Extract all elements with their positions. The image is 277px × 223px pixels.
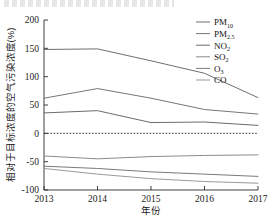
legend-label-so2: SO2 bbox=[214, 52, 229, 63]
chart-legend: PM10PM2.5NO2SO2O3CO bbox=[196, 17, 235, 85]
data-series-group bbox=[44, 49, 258, 183]
x-tick-label: 2014 bbox=[88, 194, 107, 204]
legend-label-no2: NO2 bbox=[214, 41, 230, 52]
legend-label-co: CO bbox=[214, 75, 227, 85]
x-tick-label: 2013 bbox=[35, 194, 54, 204]
series-line-no2 bbox=[44, 111, 258, 126]
chart-page: 200150100500-50-100 20132014201520162017… bbox=[0, 0, 277, 223]
legend-label-o3: O3 bbox=[214, 64, 224, 75]
x-axis-title: 年份 bbox=[141, 205, 161, 216]
x-tick-label: 2015 bbox=[142, 194, 161, 204]
y-tick-label: 150 bbox=[25, 44, 40, 54]
x-tick-label: 2016 bbox=[195, 194, 214, 204]
series-line-pm2-5 bbox=[44, 89, 258, 115]
line-chart: 200150100500-50-100 20132014201520162017… bbox=[0, 0, 277, 223]
series-line-pm10 bbox=[44, 49, 258, 98]
y-tick-label: 100 bbox=[25, 72, 40, 82]
y-axis-title: 相对于目标浓度的空气污染浓度(%) bbox=[5, 28, 16, 183]
y-tick-label: -50 bbox=[26, 157, 39, 167]
y-tick-label: 200 bbox=[25, 15, 40, 25]
legend-label-pm10: PM10 bbox=[214, 17, 233, 28]
y-tick-label: 0 bbox=[34, 129, 39, 139]
y-tick-label: 50 bbox=[30, 100, 40, 110]
series-line-o3 bbox=[44, 166, 258, 176]
x-axis-ticks: 20132014201520162017 bbox=[35, 186, 268, 204]
x-tick-label: 2017 bbox=[249, 194, 268, 204]
series-line-so2 bbox=[44, 155, 258, 159]
legend-label-pm2-5: PM2.5 bbox=[214, 29, 235, 40]
series-line-co bbox=[44, 168, 258, 183]
